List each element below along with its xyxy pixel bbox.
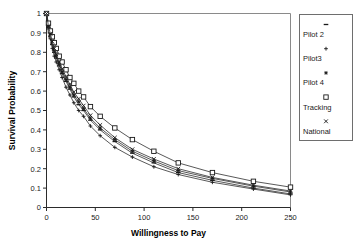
y-tick-label: 0.3 xyxy=(31,145,41,154)
series-tracking xyxy=(44,11,292,189)
survival-probability-chart: 00.10.20.30.40.50.60.70.80.9105010015020… xyxy=(0,0,357,249)
x-tick-label: 200 xyxy=(235,213,248,222)
data-point-marker xyxy=(68,75,72,79)
data-point-marker xyxy=(251,179,255,183)
x-tick-label: 100 xyxy=(138,213,151,222)
data-point-marker xyxy=(88,104,92,108)
y-tick-label: 0.7 xyxy=(31,68,41,77)
x-tick-label: 150 xyxy=(187,213,200,222)
series-line xyxy=(47,14,291,195)
y-tick-label: 1 xyxy=(37,9,41,18)
legend-label: National xyxy=(303,127,331,136)
x-axis-title: Willingness to Pay xyxy=(131,228,206,238)
legend-label: Pilot 4 xyxy=(303,78,324,87)
series-national xyxy=(45,12,293,193)
data-point-marker xyxy=(77,89,81,93)
data-point-marker xyxy=(130,155,134,159)
series-line xyxy=(47,14,291,188)
y-tick-label: 0.6 xyxy=(31,87,41,96)
data-point-marker xyxy=(210,170,214,174)
data-point-marker xyxy=(72,81,76,85)
data-point-marker xyxy=(324,71,328,75)
data-point-marker xyxy=(98,114,102,118)
y-tick-label: 0.8 xyxy=(31,48,41,57)
y-axis-title: Survival Probability xyxy=(7,71,17,151)
data-point-marker xyxy=(64,68,68,72)
data-point-marker xyxy=(68,93,72,97)
legend-label: Tracking xyxy=(303,103,331,112)
data-point-marker xyxy=(152,165,156,169)
data-point-marker xyxy=(176,161,180,165)
data-point-marker xyxy=(81,95,85,99)
legend-label: Pilot3 xyxy=(303,54,322,63)
data-point-marker xyxy=(64,85,68,89)
y-tick-label: 0.2 xyxy=(31,165,41,174)
y-tick-label: 0.5 xyxy=(31,106,41,115)
y-tick-label: 0.1 xyxy=(31,184,41,193)
data-point-marker xyxy=(130,137,134,141)
y-tick-label: 0 xyxy=(37,203,41,212)
y-tick-label: 0.4 xyxy=(31,126,41,135)
chart-page: 00.10.20.30.40.50.60.70.80.9105010015020… xyxy=(0,0,357,249)
y-tick-label: 0.9 xyxy=(31,29,41,38)
x-tick-label: 0 xyxy=(44,213,48,222)
data-point-marker xyxy=(72,101,76,105)
data-point-marker xyxy=(113,126,117,130)
series-line xyxy=(47,14,291,192)
legend-label: Pilot 2 xyxy=(303,30,324,39)
data-point-marker xyxy=(324,95,328,99)
chart-legend[interactable]: Pilot 2Pilot3Pilot 4TrackingNational xyxy=(300,15,353,141)
data-point-marker xyxy=(288,185,292,189)
x-tick-label: 50 xyxy=(91,213,99,222)
data-point-marker xyxy=(152,149,156,153)
data-series-group xyxy=(44,11,293,196)
x-tick-label: 250 xyxy=(284,213,297,222)
